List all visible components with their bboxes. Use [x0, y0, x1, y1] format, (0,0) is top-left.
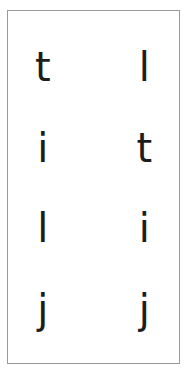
- letter-row: j j: [8, 269, 179, 350]
- letter-row: l i: [8, 188, 179, 269]
- letter-glyph: j: [37, 289, 48, 329]
- letter-cell-left: j: [8, 269, 96, 350]
- letter-row: i t: [8, 108, 179, 189]
- letter-glyph: l: [139, 47, 150, 87]
- letter-row: t l: [8, 27, 179, 108]
- letter-cell-left: t: [8, 27, 96, 108]
- letter-glyph: t: [35, 47, 51, 87]
- letter-panel: t l i t l i j: [7, 10, 180, 364]
- letter-grid: t l i t l i j: [8, 11, 179, 363]
- letter-glyph: j: [139, 289, 150, 329]
- letter-cell-right: l: [96, 27, 180, 108]
- letter-glyph: i: [139, 208, 150, 248]
- letter-cell-left: i: [8, 108, 96, 189]
- letter-glyph: i: [37, 128, 48, 168]
- letter-cell-left: l: [8, 188, 96, 269]
- letter-cell-right: j: [96, 269, 180, 350]
- letter-glyph: l: [37, 208, 48, 248]
- letter-glyph: t: [136, 128, 152, 168]
- letter-cell-right: t: [96, 108, 180, 189]
- letter-cell-right: i: [96, 188, 180, 269]
